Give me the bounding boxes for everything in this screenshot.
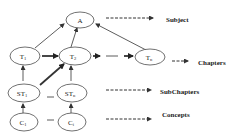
node-tn: Tn	[135, 49, 165, 65]
node-stn: STn	[57, 84, 87, 102]
node-ci: Ci	[58, 113, 86, 131]
node-c1: C1	[10, 113, 38, 131]
legend-label-chapters: Chapters	[198, 59, 226, 67]
node-a: A	[66, 12, 94, 28]
svg-text:A: A	[77, 17, 82, 25]
node-t1: T1	[10, 47, 40, 65]
edge-t1-a	[35, 24, 64, 48]
edges	[23, 24, 146, 120]
edge-st1-t2	[40, 64, 64, 85]
hierarchy-diagram: A T1 T2 Tn ST1 STn C1 Ci Subject Chapter…	[0, 0, 238, 139]
legend-label-concepts: Concepts	[162, 111, 190, 119]
legend-label-subchapters: SubChapters	[160, 88, 200, 96]
legend	[106, 18, 188, 119]
edge-tn-a	[96, 24, 146, 50]
node-t2: T2	[59, 47, 91, 65]
legend-label-subject: Subject	[166, 16, 189, 24]
node-st1: ST1	[8, 84, 40, 102]
edge-t2-a	[71, 28, 77, 47]
